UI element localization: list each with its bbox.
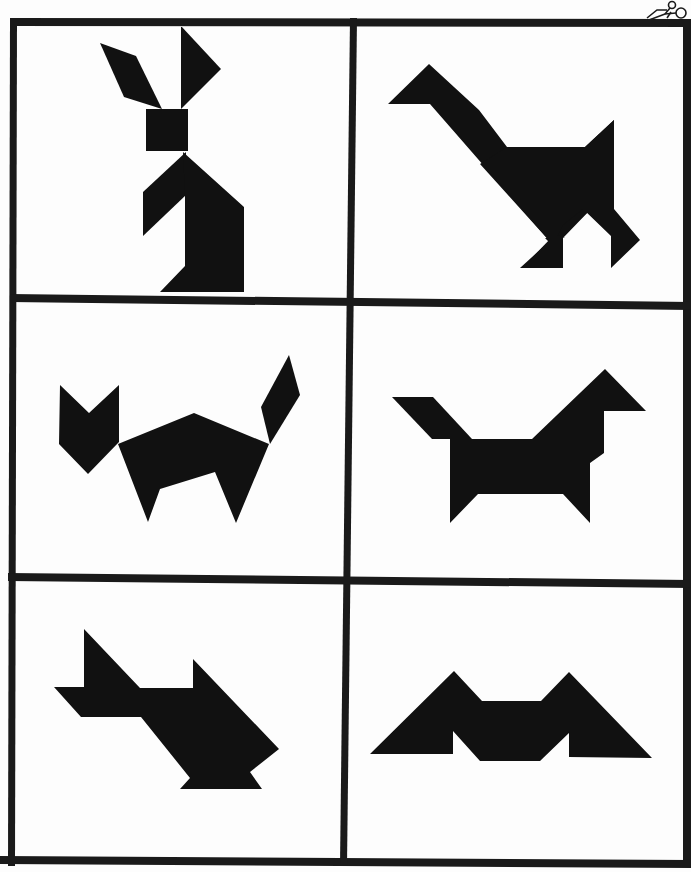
- card-horse: Horse: [352, 309, 684, 581]
- card-bat: Bat: [347, 588, 683, 860]
- rabbit-silhouette: [17, 27, 350, 295]
- horse-silhouette: [352, 309, 684, 581]
- cat-silhouette: [16, 302, 346, 574]
- goose-silhouette: [355, 27, 685, 302]
- bat-silhouette: [347, 588, 683, 860]
- card-rabbit: Rabbit: [17, 27, 350, 295]
- card-cat: Cat: [16, 302, 346, 574]
- card-swan: Swan: [15, 581, 342, 859]
- swan-silhouette: [15, 581, 342, 859]
- card-goose: Goose: [355, 27, 685, 302]
- tangram-worksheet: Rabbit Goose: [0, 0, 691, 872]
